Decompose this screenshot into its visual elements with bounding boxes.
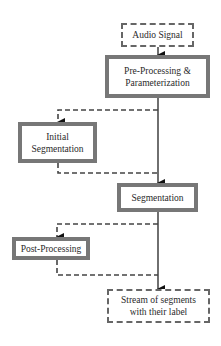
node-label-line1: Pre-Processing & <box>124 65 191 77</box>
node-label-line1: Initial <box>46 131 69 143</box>
node-label: Post-Processing <box>21 243 82 255</box>
edge-postproc-stream <box>57 260 158 275</box>
edge-initseg-seg <box>58 163 158 173</box>
edge-preproc-initseg <box>58 110 158 122</box>
node-stream-of-segments: Stream of segments with their label <box>107 289 210 323</box>
node-post-processing: Post-Processing <box>12 237 90 260</box>
node-label: Segmentation <box>131 192 183 204</box>
node-initial-segmentation: Initial Segmentation <box>18 122 97 163</box>
node-audio-signal: Audio Signal <box>121 23 194 47</box>
node-label: Audio Signal <box>132 29 182 41</box>
edge-seg-postproc <box>57 224 158 237</box>
node-label-line1: Stream of segments <box>121 294 196 306</box>
node-label-line2: Segmentation <box>31 143 83 155</box>
node-segmentation: Segmentation <box>117 183 198 212</box>
node-label-line2: Parameterization <box>125 77 189 89</box>
node-pre-processing: Pre-Processing & Parameterization <box>105 55 210 98</box>
node-label-line2: with their label <box>130 306 188 318</box>
